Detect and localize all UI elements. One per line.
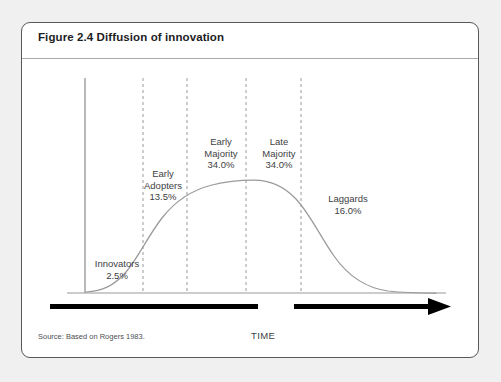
source-note: Source: Based on Rogers 1983. [38, 332, 145, 341]
label-laggards: Laggards 16.0% [310, 193, 386, 216]
label-late-majority-line1: Late [270, 136, 289, 147]
label-laggards-name: Laggards [328, 193, 368, 204]
label-late-majority-percent: 34.0% [246, 159, 312, 171]
label-early-majority-line1: Early [210, 136, 232, 147]
label-early-majority-line2: Majority [188, 148, 254, 160]
page-title: Figure 2.4 Diffusion of innovation [38, 31, 224, 43]
label-early-majority: Early Majority 34.0% [188, 136, 254, 171]
label-late-majority-line2: Majority [246, 148, 312, 160]
label-early-adopters-percent: 13.5% [132, 191, 194, 203]
label-late-majority: Late Majority 34.0% [246, 136, 312, 171]
label-early-adopters-line1: Early [152, 168, 174, 179]
time-arrow-bar-right [294, 304, 432, 309]
label-innovators: Innovators 2.5% [84, 258, 150, 281]
label-early-adopters-line2: Adopters [132, 180, 194, 192]
label-laggards-percent: 16.0% [310, 205, 386, 217]
time-arrow-bar-left [50, 304, 258, 309]
time-arrowhead-icon [428, 298, 451, 315]
label-early-majority-percent: 34.0% [188, 159, 254, 171]
figure-card: Figure 2.4 Diffusion of innovation Innov… [21, 22, 479, 358]
diffusion-curve-chart [22, 58, 478, 330]
chart-plot-area: Innovators 2.5% Early Adopters 13.5% Ear… [22, 58, 478, 330]
x-axis-label: TIME [251, 330, 275, 341]
label-early-adopters: Early Adopters 13.5% [132, 168, 194, 203]
label-innovators-percent: 2.5% [84, 270, 150, 282]
label-innovators-name: Innovators [95, 258, 139, 269]
